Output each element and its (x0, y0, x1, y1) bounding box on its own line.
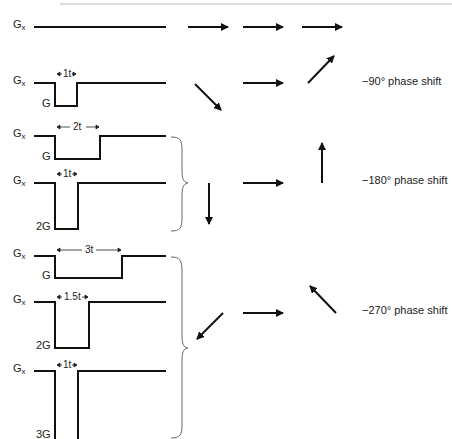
amplitude-label-row3: G (42, 150, 51, 162)
arrow-down-right-icon (195, 84, 221, 110)
phase-vector-arrows (188, 27, 342, 339)
amplitude-label-row2: G (42, 97, 51, 109)
duration-label-row3: 2t (72, 122, 82, 132)
gx-label-row6: Gx (13, 293, 26, 307)
phase-label-180: −180° phase shift (362, 174, 447, 186)
arrow-up-right-icon (308, 56, 334, 83)
duration-label-row2: 1t (62, 69, 72, 79)
waveform-row2 (34, 83, 166, 106)
gx-label-row4: Gx (13, 174, 26, 188)
amplitude-label-row7: 3G (36, 428, 51, 439)
amplitude-label-row4: 2G (36, 220, 51, 232)
gx-label-row5: Gx (13, 247, 26, 261)
gx-label-row3: Gx (13, 127, 26, 141)
brace-group-180 (171, 137, 188, 231)
waveform-row4 (34, 183, 166, 229)
waveform-row3 (34, 136, 166, 159)
duration-label-row7: 1t (62, 360, 72, 370)
waveform-row5 (34, 256, 166, 278)
waveform-row6 (34, 302, 166, 348)
duration-label-row4: 1t (62, 169, 72, 179)
waveform-row7 (34, 371, 166, 439)
gx-label-row2: Gx (13, 74, 26, 88)
amplitude-label-row5: G (42, 269, 51, 281)
amplitude-label-row6: 2G (36, 339, 51, 351)
brace-group-270 (171, 257, 188, 438)
phase-label-270: −270° phase shift (362, 304, 447, 316)
arrow-up-left-icon (310, 286, 336, 313)
duration-label-row5: 3t (84, 245, 94, 255)
duration-label-row6: 1.5t (63, 292, 82, 302)
gx-label-row7: Gx (13, 362, 26, 376)
phase-shift-diagram (0, 0, 452, 439)
phase-label-90: −90° phase shift (362, 75, 441, 87)
arrow-down-left-icon (197, 313, 223, 339)
gx-label-row1: Gx (13, 18, 26, 32)
